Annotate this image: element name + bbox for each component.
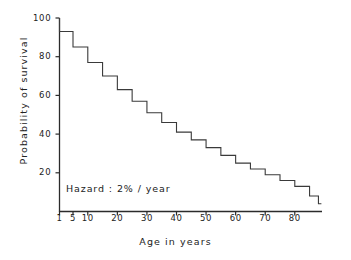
x-tick-label: 30: [137, 213, 157, 223]
x-tick-label: 40: [167, 213, 187, 223]
y-tick-label: 80: [26, 51, 52, 61]
hazard-annotation: Hazard : 2% / year: [66, 183, 171, 194]
x-tick-label: 20: [107, 213, 127, 223]
y-tick-label: 100: [26, 13, 52, 23]
x-tick-label: 60: [226, 213, 246, 223]
survival-curve-figure: 10080604020 151020304050607080 Probabili…: [0, 0, 351, 260]
x-tick-label: 70: [255, 213, 275, 223]
x-tick-label: 80: [285, 213, 305, 223]
y-tick-label: 20: [26, 167, 52, 177]
y-axis-title: Probability of survival: [18, 16, 29, 186]
x-tick-label: 50: [196, 213, 216, 223]
y-tick-label: 40: [26, 129, 52, 139]
survival-step-line: [60, 18, 322, 204]
x-axis-title: Age in years: [0, 236, 351, 247]
x-tick-label: 10: [78, 213, 98, 223]
y-tick-label: 60: [26, 90, 52, 100]
